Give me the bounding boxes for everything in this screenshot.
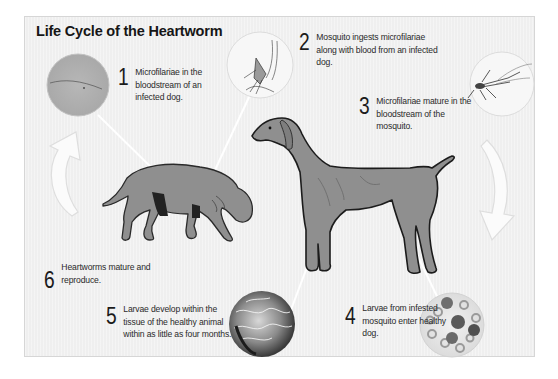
step-2-label: 2 Mosquito ingests microfilariae along w… [299,31,446,69]
step-description: Larvae from infested mosquito enter heal… [362,302,452,340]
step-description: Mosquito ingests microfilariae along wit… [316,31,446,69]
step-number: 3 [359,95,370,117]
step-number: 5 [106,305,117,327]
step-description: Microfilariae in the bloodstream of an i… [135,66,230,104]
step-description: Larvae develop within the tissue of the … [123,303,233,341]
step-4-label: 4 Larvae from infested mosquito enter he… [345,302,452,340]
step-3-label: 3 Microfilariae mature in the bloodstrea… [359,95,472,133]
diagram-title: Life Cycle of the Heartworm [36,23,222,39]
heartworms-tissue-circle [229,291,295,357]
mosquito-circle [468,52,534,116]
step-number: 1 [118,66,129,88]
step-1-label: 1 Microfilariae in the bloodstream of an… [118,66,230,104]
infected-dog-illustration [103,164,252,241]
microfilariae-circle [47,54,109,116]
step-description: Microfilariae mature in the bloodstream … [376,95,472,133]
heartworm-cycle-artwork [0,0,558,379]
step-5-label: 5 Larvae develop within the tissue of th… [106,303,233,341]
step-number: 2 [299,31,310,53]
step-6-label: 6 Heartworms mature and reproduce. [44,261,151,291]
step-number: 6 [44,269,55,291]
mosquito-feeding-circle [227,32,293,98]
step-number: 4 [345,305,356,327]
healthy-dog-illustration [252,118,454,273]
curved-arrow-down-right-icon [480,140,514,240]
curved-arrow-up-left-icon [50,132,80,216]
step-description: Heartworms mature and reproduce. [61,261,151,286]
